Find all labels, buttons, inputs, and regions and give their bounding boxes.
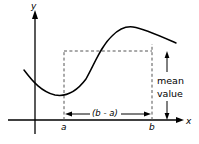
x-tick-label-b: b [149,123,155,132]
mean-value-label-line-2: value [157,89,184,99]
x-axis-arrow-icon [176,117,184,123]
y-axis-label: y [31,2,36,11]
mean-value-figure: y x a b (b - a) mean value [0,0,199,144]
figure-canvas [0,0,199,144]
mean-value-arrow-down-icon [165,113,170,120]
x-axis-label: x [186,117,191,126]
interval-arrow-right-icon [144,112,151,117]
mean-value-label-line-1: mean [157,76,184,86]
interval-label: (b - a) [91,109,119,118]
y-axis [32,10,38,134]
function-curve [24,27,176,96]
mean-value-label: mean value [157,76,184,98]
y-axis-arrow-icon [32,10,38,19]
mean-value-arrow-up-icon [165,51,170,58]
x-tick-label-a: a [61,123,67,132]
interval-arrow-left-icon [65,112,72,117]
